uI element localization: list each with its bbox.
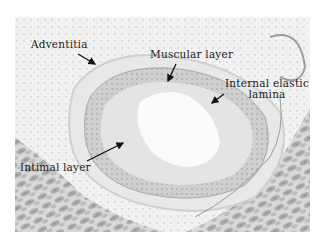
muscular-layer-label: Muscular layer	[150, 49, 233, 60]
adventitia-label: Adventitia	[31, 39, 88, 50]
intimal-layer-label: Intimal layer	[20, 162, 91, 173]
internal-elastic-lamina-line2: lamina	[225, 89, 309, 100]
internal-elastic-lamina-label: Internal elastic lamina	[225, 78, 309, 100]
